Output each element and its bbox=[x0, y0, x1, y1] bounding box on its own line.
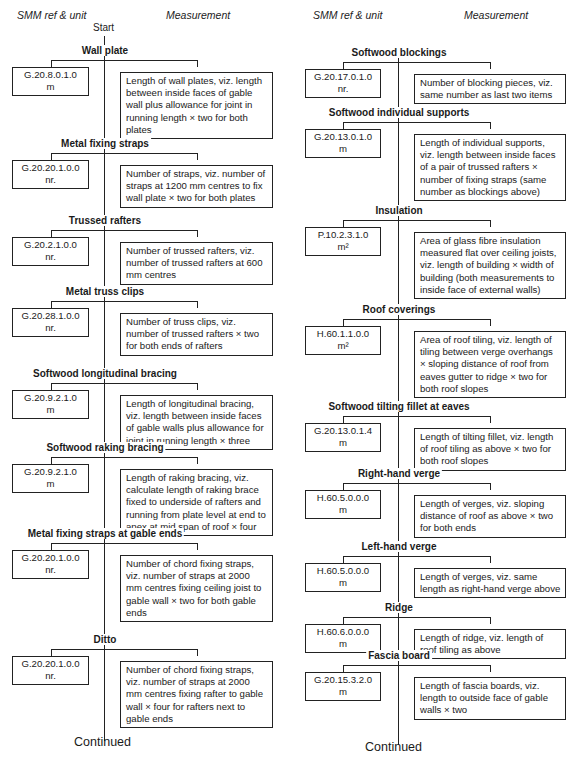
branch-connector-line bbox=[343, 617, 490, 618]
unit-label: m bbox=[13, 81, 88, 93]
branch-drop-line bbox=[343, 319, 344, 326]
branch-drop-line bbox=[343, 617, 344, 624]
smm-ref-code: H.60.6.0.0.0 bbox=[306, 626, 380, 638]
ref-column-header: SMM ref & unit bbox=[17, 9, 86, 21]
branch-drop-line bbox=[197, 301, 198, 308]
branch-connector-line bbox=[51, 301, 197, 302]
branch-drop-line bbox=[197, 60, 198, 67]
measurement-box: Number of chord fixing straps, viz. numb… bbox=[120, 661, 273, 728]
smm-ref-box: G.20.9.2.1.0m bbox=[12, 390, 89, 419]
item-title: Trussed rafters bbox=[67, 215, 143, 226]
branch-drop-line bbox=[490, 62, 491, 69]
item-title: Metal fixing straps bbox=[59, 138, 151, 149]
branch-drop-line bbox=[490, 665, 491, 672]
branch-drop-line bbox=[197, 543, 198, 550]
smm-ref-box: H.60.5.0.0.0m bbox=[305, 490, 381, 519]
flow-trunk-line bbox=[398, 55, 399, 745]
unit-label: m bbox=[306, 577, 380, 589]
measurement-box: Length of tilting fillet, viz. length of… bbox=[414, 428, 566, 471]
smm-ref-code: G.20.9.2.1.0 bbox=[13, 466, 88, 478]
continued-label: Continued bbox=[74, 735, 131, 749]
item-title: Softwood tilting fillet at eaves bbox=[326, 401, 471, 412]
smm-ref-box: G.20.17.0.1.0nr. bbox=[305, 69, 381, 98]
smm-ref-box: G.20.20.1.0.0nr. bbox=[12, 656, 89, 685]
ref-column-header: SMM ref & unit bbox=[313, 9, 382, 21]
smm-ref-code: H.60.5.0.0.0 bbox=[306, 492, 380, 504]
unit-label: m² bbox=[306, 241, 380, 253]
unit-label: nr. bbox=[13, 564, 88, 576]
branch-drop-line bbox=[343, 556, 344, 563]
branch-connector-line bbox=[343, 62, 490, 63]
measurement-box: Number of straps, viz. number of straps … bbox=[120, 165, 273, 208]
branch-drop-line bbox=[490, 319, 491, 326]
branch-connector-line bbox=[343, 483, 490, 484]
branch-drop-line bbox=[197, 153, 198, 160]
right-flowchart: SMM ref & unit Measurement Softwood bloc… bbox=[288, 0, 576, 773]
item-title: Softwood individual supports bbox=[327, 107, 472, 118]
item-title: Softwood blockings bbox=[350, 47, 449, 58]
branch-drop-line bbox=[51, 301, 52, 308]
measurement-box: Area of glass fibre insulation measured … bbox=[414, 232, 566, 299]
branch-drop-line bbox=[51, 383, 52, 390]
smm-ref-code: G.20.13.0.1.0 bbox=[306, 131, 380, 143]
smm-ref-code: G.20.2.1.0.0 bbox=[13, 239, 88, 251]
unit-label: m² bbox=[306, 340, 380, 352]
branch-drop-line bbox=[490, 416, 491, 423]
branch-drop-line bbox=[51, 543, 52, 550]
item-title: Fascia board bbox=[366, 650, 432, 661]
smm-ref-code: G.20.20.1.0.0 bbox=[13, 552, 88, 564]
smm-ref-code: G.20.20.1.0.0 bbox=[13, 162, 88, 174]
unit-label: m bbox=[306, 437, 380, 449]
branch-drop-line bbox=[343, 665, 344, 672]
unit-label: nr. bbox=[13, 322, 88, 334]
measurement-box: Number of blocking pieces, viz. same num… bbox=[414, 74, 566, 104]
measurement-box: Length of verges, viz. same length as ri… bbox=[414, 568, 566, 598]
measurement-box: Length of ridge, viz. length of roof til… bbox=[414, 629, 566, 659]
left-flowchart: SMM ref & unit Measurement Start Wall pl… bbox=[0, 0, 288, 773]
measurement-box: Number of chord fixing straps, viz. numb… bbox=[120, 555, 273, 622]
item-title: Softwood longitudinal bracing bbox=[31, 368, 179, 379]
branch-drop-line bbox=[490, 122, 491, 129]
smm-ref-code: G.20.8.0.1.0 bbox=[13, 69, 88, 81]
measurement-box: Length of raking bracing, viz. calculate… bbox=[120, 469, 273, 536]
smm-ref-code: G.20.17.0.1.0 bbox=[306, 71, 380, 83]
unit-label: nr. bbox=[13, 174, 88, 186]
smm-ref-box: G.20.2.1.0.0nr. bbox=[12, 237, 89, 266]
branch-drop-line bbox=[490, 220, 491, 227]
item-title: Roof coverings bbox=[361, 304, 438, 315]
smm-ref-box: G.20.28.1.0.0nr. bbox=[12, 308, 89, 337]
measurement-box: Number of truss clips, viz. number of tr… bbox=[120, 313, 273, 356]
smm-ref-code: G.20.13.0.1.4 bbox=[306, 425, 380, 437]
branch-drop-line bbox=[197, 230, 198, 237]
branch-drop-line bbox=[490, 617, 491, 624]
smm-ref-code: G.20.9.2.1.0 bbox=[13, 392, 88, 404]
branch-connector-line bbox=[343, 220, 490, 221]
branch-drop-line bbox=[51, 60, 52, 67]
unit-label: nr. bbox=[13, 670, 88, 682]
item-title: Wall plate bbox=[80, 45, 130, 56]
smm-ref-box: G.20.15.3.2.0m bbox=[305, 672, 381, 701]
measurement-box: Number of trussed rafters, viz. number o… bbox=[120, 242, 273, 285]
branch-drop-line bbox=[343, 483, 344, 490]
measurement-box: Length of fascia boards, viz. length to … bbox=[414, 677, 566, 720]
unit-label: m bbox=[306, 686, 380, 698]
branch-connector-line bbox=[343, 556, 490, 557]
branch-drop-line bbox=[51, 649, 52, 656]
item-title: Metal truss clips bbox=[64, 286, 146, 297]
smm-ref-box: G.20.20.1.0.0nr. bbox=[12, 160, 89, 189]
unit-label: m bbox=[306, 638, 380, 650]
branch-drop-line bbox=[197, 457, 198, 464]
measurement-column-header: Measurement bbox=[166, 9, 230, 21]
smm-ref-box: P.10.2.3.1.0m² bbox=[305, 227, 381, 256]
unit-label: nr. bbox=[13, 251, 88, 263]
item-title: Softwood raking bracing bbox=[44, 442, 165, 453]
continued-label: Continued bbox=[365, 740, 422, 754]
smm-ref-code: G.20.15.3.2.0 bbox=[306, 674, 380, 686]
branch-connector-line bbox=[51, 230, 197, 231]
branch-connector-line bbox=[51, 649, 197, 650]
unit-label: nr. bbox=[306, 83, 380, 95]
branch-connector-line bbox=[343, 122, 490, 123]
smm-ref-box: H.60.6.0.0.0m bbox=[305, 624, 381, 653]
branch-connector-line bbox=[51, 457, 197, 458]
branch-drop-line bbox=[343, 416, 344, 423]
